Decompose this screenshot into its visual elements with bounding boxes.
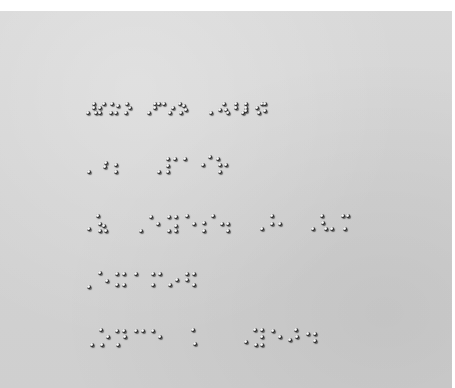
braille-dot <box>270 222 274 226</box>
braille-dot <box>124 111 128 115</box>
braille-dot <box>168 111 172 115</box>
braille-dot <box>122 329 126 333</box>
braille-dot <box>320 214 324 218</box>
braille-dot <box>175 278 179 282</box>
braille-dot <box>226 229 230 233</box>
braille-dot <box>324 227 328 231</box>
braille-dot <box>254 343 258 347</box>
braille-dot <box>149 215 153 219</box>
braille-dot <box>96 214 100 218</box>
braille-dot <box>270 214 274 218</box>
braille-dot <box>341 214 345 218</box>
braille-dot <box>166 170 170 174</box>
braille-dot <box>151 272 155 276</box>
braille-dot <box>191 328 195 332</box>
braille-dot <box>263 102 267 106</box>
braille-dot <box>218 108 222 112</box>
braille-dot <box>288 338 292 342</box>
braille-dot <box>234 106 238 110</box>
braille-dot <box>151 329 155 333</box>
braille-dot <box>173 157 177 161</box>
braille-dot <box>104 229 108 233</box>
braille-dot <box>313 332 317 336</box>
braille-dot <box>244 109 248 113</box>
braille-dot <box>183 157 187 161</box>
braille-dot <box>103 165 107 169</box>
braille-dot <box>174 224 178 228</box>
braille-dot <box>255 106 259 110</box>
braille-dot <box>109 111 113 115</box>
braille-dot <box>179 111 183 115</box>
braille-dot <box>321 221 325 225</box>
braille-dot <box>211 214 215 218</box>
braille-dot <box>116 343 120 347</box>
braille-dot <box>151 283 155 287</box>
braille-dot <box>98 106 102 110</box>
braille-dot <box>114 111 118 115</box>
braille-dot <box>202 229 206 233</box>
braille-dot <box>114 163 118 167</box>
braille-dot <box>202 221 206 225</box>
braille-dot <box>115 283 119 287</box>
braille-dot <box>171 106 175 110</box>
braille-dot <box>139 229 143 233</box>
braille-dot <box>98 229 102 233</box>
braille-dot <box>110 102 114 106</box>
braille-dot <box>158 272 162 276</box>
braille-dot <box>346 214 350 218</box>
braille-dot <box>99 328 103 332</box>
braille-dot <box>260 227 264 231</box>
braille-dot <box>167 229 171 233</box>
braille-dot <box>86 111 90 115</box>
braille-dot <box>158 335 162 339</box>
braille-dot <box>162 102 166 106</box>
braille-dot <box>106 335 110 339</box>
braille-paper <box>0 11 452 388</box>
braille-dot <box>271 329 275 333</box>
braille-dot <box>343 227 347 231</box>
braille-dot <box>174 215 178 219</box>
braille-dot <box>278 335 282 339</box>
braille-dot <box>105 279 109 283</box>
braille-dot <box>244 340 248 344</box>
braille-dot <box>115 272 119 276</box>
braille-dot <box>201 163 205 167</box>
braille-dot <box>134 272 138 276</box>
braille-dot <box>157 102 161 106</box>
braille-dot <box>87 227 91 231</box>
braille-dot <box>306 332 310 336</box>
braille-dot <box>192 283 196 287</box>
braille-dot <box>226 222 230 226</box>
braille-dot <box>209 111 213 115</box>
braille-dot <box>102 224 106 228</box>
braille-dot <box>102 102 106 106</box>
braille-dot <box>257 111 261 115</box>
braille-dot <box>192 272 196 276</box>
braille-dot <box>260 335 264 339</box>
braille-dot <box>185 278 189 282</box>
braille-dot <box>167 215 171 219</box>
braille-dot <box>115 329 119 333</box>
braille-dot <box>260 343 264 347</box>
braille-dot <box>125 102 129 106</box>
braille-dot <box>222 102 226 106</box>
braille-dot <box>185 272 189 276</box>
braille-dot <box>157 170 161 174</box>
braille-dot <box>98 111 102 115</box>
braille-dot <box>330 227 334 231</box>
braille-dot <box>128 106 132 110</box>
braille-dot <box>311 227 315 231</box>
braille-dot <box>98 271 102 275</box>
braille-dot <box>87 170 91 174</box>
braille-dot <box>224 163 228 167</box>
braille-dot <box>141 329 145 333</box>
braille-dot <box>147 111 151 115</box>
braille-dot <box>218 170 222 174</box>
braille-dot <box>313 339 317 343</box>
braille-dot <box>294 328 298 332</box>
braille-dot <box>253 328 257 332</box>
braille-dot <box>278 222 282 226</box>
braille-dot <box>295 335 299 339</box>
braille-dot <box>123 335 127 339</box>
braille-dot <box>100 343 104 347</box>
